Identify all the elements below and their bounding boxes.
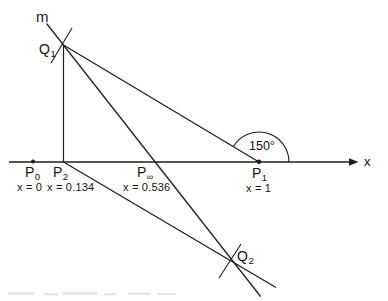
point-p2-value: x = 0.134 <box>47 182 94 193</box>
x-axis-arrowhead-icon <box>349 158 359 165</box>
p0-value-text: x = 0 <box>17 181 42 193</box>
point-pinf-label: P∞ <box>137 165 154 179</box>
p0-base-text: P <box>25 164 34 180</box>
line-m-label: m <box>36 9 49 24</box>
point-pinf-value: x = 0.536 <box>123 182 170 193</box>
line-m <box>47 24 261 297</box>
diagram-linework <box>0 0 388 301</box>
point-p2-label: P2 <box>53 165 68 179</box>
p1-value-text: x = 1 <box>246 182 271 194</box>
point-q1-label: Q1 <box>39 42 56 56</box>
point-p1-label: P1 <box>252 166 267 180</box>
pinf-base-text: P <box>137 164 146 180</box>
q2-subscript-text: 2 <box>248 255 253 266</box>
p1-base-text: P <box>252 165 261 181</box>
segment-q1-p1 <box>64 45 260 162</box>
point-p0-label: P0 <box>25 165 40 179</box>
p2-base-text: P <box>53 164 62 180</box>
point-p1-dot <box>257 160 261 164</box>
angle-value-text: 150° <box>249 139 275 153</box>
figure-diagram: m Q1 Q2 150° x P0 x = 0 P2 x = 0.134 P∞ … <box>0 0 388 301</box>
line-m-label-text: m <box>36 8 49 25</box>
angle-value-label: 150° <box>249 140 275 153</box>
pinf-value-text: x = 0.536 <box>123 181 170 193</box>
point-q2-label: Q2 <box>237 249 254 263</box>
cropped-caption-remnant <box>8 292 176 296</box>
x-axis-label: x <box>364 155 371 168</box>
p2-value-text: x = 0.134 <box>47 181 94 193</box>
q1-subscript-text: 1 <box>50 48 55 59</box>
point-p0-value: x = 0 <box>17 182 42 193</box>
point-p0-dot <box>31 160 35 164</box>
x-axis-label-text: x <box>364 154 371 169</box>
point-p1-value: x = 1 <box>246 183 271 194</box>
q1-base-text: Q <box>39 41 50 57</box>
q2-base-text: Q <box>237 248 248 264</box>
